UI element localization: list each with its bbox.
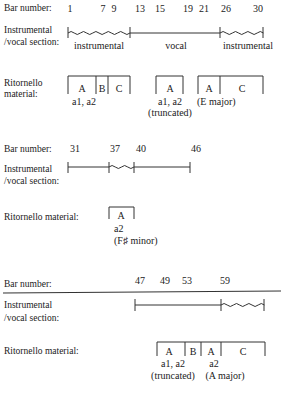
wavy-line <box>109 166 134 169</box>
wavy-instrumental-line <box>68 32 130 35</box>
horizontal-rule <box>3 291 281 293</box>
diagram-lines <box>0 0 283 393</box>
wavy-line <box>221 304 264 307</box>
ritornello-box <box>156 76 183 94</box>
ritornello-box <box>157 342 265 356</box>
ritornello-box <box>68 76 130 94</box>
ritornello-box <box>109 207 134 219</box>
wavy-instrumental-line <box>220 32 263 35</box>
ritornello-box <box>198 76 263 94</box>
